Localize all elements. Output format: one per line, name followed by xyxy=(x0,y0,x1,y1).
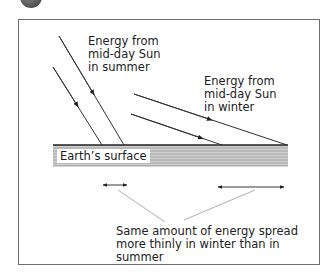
earth-surface-label: Earth’s surface xyxy=(57,149,150,163)
caption-label: Same amount of energy spread more thinly… xyxy=(116,225,326,264)
spread-markers xyxy=(103,185,284,187)
summer-energy-label: Energy from mid-day Sun in summer xyxy=(88,35,161,74)
caption-pointers xyxy=(118,190,255,222)
winter-energy-label: Energy from mid-day Sun in winter xyxy=(204,75,277,114)
